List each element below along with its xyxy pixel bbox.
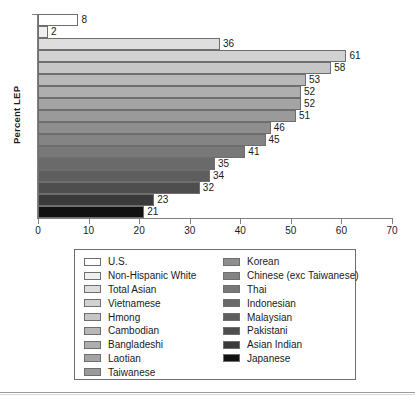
- bar: [38, 14, 78, 26]
- legend-item-label: Malaysian: [247, 312, 292, 323]
- bar-value-label: 2: [48, 26, 57, 38]
- legend-item-label: Cambodian: [108, 325, 159, 336]
- y-axis-title: Percent LEP: [9, 60, 23, 170]
- bar: [38, 182, 200, 194]
- bar: [38, 62, 331, 74]
- bar-value-label: 52: [301, 98, 315, 110]
- legend-swatch: [223, 313, 240, 321]
- legend-swatch: [223, 272, 240, 280]
- x-axis-tick-label: 10: [74, 225, 104, 236]
- legend-item[interactable]: Korean: [223, 255, 359, 269]
- bar: [38, 134, 266, 146]
- bar: [38, 146, 245, 158]
- legend-item[interactable]: Hmong: [84, 310, 196, 324]
- legend-item[interactable]: Vietnamese: [84, 296, 196, 310]
- legend-column-right: KoreanChinese (exc Taiwanese)ThaiIndones…: [223, 255, 359, 365]
- bar-value-label: 51: [296, 110, 310, 122]
- bar-chart-figure: Percent LEP 8236615853525251464541353432…: [0, 0, 415, 406]
- plot-area: 82366158535252514645413534322321 0102030…: [38, 14, 392, 218]
- x-axis-tick-label: 40: [225, 225, 255, 236]
- legend-item[interactable]: Malaysian: [223, 310, 359, 324]
- bar-value-label: 45: [266, 134, 280, 146]
- x-axis-tick: [240, 219, 241, 224]
- legend-swatch: [84, 327, 101, 335]
- x-axis-tick-label: 70: [377, 225, 407, 236]
- bar: [38, 86, 301, 98]
- x-axis-tick-label: 0: [23, 225, 53, 236]
- legend-item-label: U.S.: [108, 256, 127, 267]
- legend-swatch: [84, 285, 101, 293]
- footer-divider-shadow: [0, 394, 415, 395]
- legend-item-label: Indonesian: [247, 298, 296, 309]
- legend-item[interactable]: U.S.: [84, 255, 196, 269]
- bar-value-label: 21: [144, 206, 158, 218]
- y-axis-top-tick: [32, 14, 37, 15]
- legend-item-label: Asian Indian: [247, 339, 302, 350]
- legend-item[interactable]: Indonesian: [223, 296, 359, 310]
- legend-item[interactable]: Chinese (exc Taiwanese): [223, 269, 359, 283]
- bar: [38, 110, 296, 122]
- x-axis-tick: [291, 219, 292, 224]
- bar-value-label: 34: [210, 170, 224, 182]
- legend-item[interactable]: Japanese: [223, 352, 359, 366]
- legend-item-label: Total Asian: [108, 284, 156, 295]
- bar-value-label: 23: [154, 194, 168, 206]
- legend-box: U.S.Non-Hispanic WhiteTotal AsianVietnam…: [74, 249, 356, 380]
- legend-swatch: [84, 299, 101, 307]
- bar-value-label: 36: [220, 38, 234, 50]
- legend-item-label: Hmong: [108, 312, 140, 323]
- legend-item[interactable]: Bangladeshi: [84, 338, 196, 352]
- bar: [38, 74, 306, 86]
- legend-item[interactable]: Pakistani: [223, 324, 359, 338]
- bar: [38, 38, 220, 50]
- legend-item-label: Laotian: [108, 353, 141, 364]
- legend-swatch: [223, 341, 240, 349]
- bar-value-label: 52: [301, 86, 315, 98]
- bar-value-label: 32: [200, 182, 214, 194]
- legend-item-label: Non-Hispanic White: [108, 270, 196, 281]
- x-axis-tick-label: 60: [326, 225, 356, 236]
- x-axis-tick: [89, 219, 90, 224]
- legend-swatch: [84, 258, 101, 266]
- bar-value-label: 46: [271, 122, 285, 134]
- legend-item-label: Thai: [247, 284, 266, 295]
- x-axis-tick: [190, 219, 191, 224]
- legend-item[interactable]: Thai: [223, 283, 359, 297]
- legend-item-label: Taiwanese: [108, 367, 155, 378]
- legend-item-label: Vietnamese: [108, 298, 161, 309]
- legend-item[interactable]: Cambodian: [84, 324, 196, 338]
- bar-value-label: 53: [306, 74, 320, 86]
- legend-swatch: [84, 354, 101, 362]
- bar: [38, 194, 154, 206]
- legend-swatch: [223, 299, 240, 307]
- legend-swatch: [84, 272, 101, 280]
- x-axis-tick-label: 30: [175, 225, 205, 236]
- legend-item-label: Japanese: [247, 353, 290, 364]
- legend-swatch: [84, 341, 101, 349]
- bar: [38, 50, 346, 62]
- legend-item[interactable]: Non-Hispanic White: [84, 269, 196, 283]
- bar: [38, 206, 144, 218]
- bar-value-label: 61: [346, 50, 360, 62]
- legend-swatch: [84, 368, 101, 376]
- footer-divider: [0, 392, 415, 393]
- legend-column-left: U.S.Non-Hispanic WhiteTotal AsianVietnam…: [84, 255, 196, 379]
- legend-swatch: [223, 258, 240, 266]
- bar: [38, 170, 210, 182]
- x-axis-line: [37, 218, 393, 219]
- legend-swatch: [84, 313, 101, 321]
- legend-item[interactable]: Laotian: [84, 352, 196, 366]
- legend-item[interactable]: Taiwanese: [84, 365, 196, 379]
- legend-item[interactable]: Asian Indian: [223, 338, 359, 352]
- legend-item-label: Korean: [247, 256, 279, 267]
- bar: [38, 98, 301, 110]
- legend-item-label: Bangladeshi: [108, 339, 163, 350]
- bar: [38, 26, 48, 38]
- bar-value-label: 35: [215, 158, 229, 170]
- bar-value-label: 41: [245, 146, 259, 158]
- legend-item[interactable]: Total Asian: [84, 283, 196, 297]
- legend-item-label: Chinese (exc Taiwanese): [247, 270, 359, 281]
- bar-value-label: 8: [78, 14, 87, 26]
- bar: [38, 158, 215, 170]
- legend-swatch: [223, 354, 240, 362]
